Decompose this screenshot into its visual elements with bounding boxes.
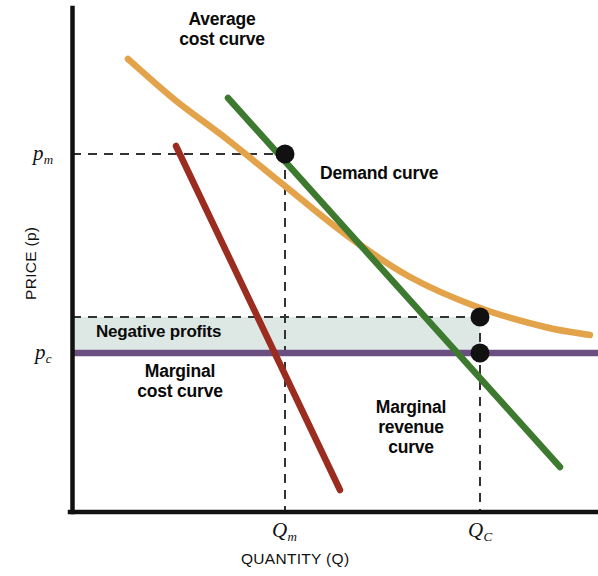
point-competitive-outcome <box>471 344 490 363</box>
x-axis-title: QUANTITY (Q) <box>241 550 349 568</box>
y-tick-pm-base: p <box>33 141 44 165</box>
y-tick-pm-sub: m <box>44 152 53 167</box>
natural-monopoly-chart: Average cost curve Demand curve Marginal… <box>0 0 598 576</box>
x-tick-label-qc: QC <box>468 518 492 543</box>
x-tick-qm-sub: m <box>287 529 296 544</box>
y-tick-pc-sub: c <box>46 351 52 366</box>
x-tick-qc-base: Q <box>468 518 483 542</box>
y-tick-pc-base: p <box>35 340 46 364</box>
axes <box>70 8 598 512</box>
y-tick-label-pc: pc <box>35 340 51 365</box>
x-tick-qc-sub: C <box>483 529 492 544</box>
x-tick-qm-base: Q <box>272 518 287 542</box>
label-average-cost-curve: Average cost curve <box>142 10 302 50</box>
label-demand-curve: Demand curve <box>320 164 500 184</box>
y-axis-title: PRICE (p) <box>22 227 40 300</box>
point-monopoly-outcome <box>276 145 295 164</box>
label-marginal-revenue-curve: Marginal revenue curve <box>336 398 486 458</box>
chart-canvas <box>0 0 598 576</box>
x-tick-label-qm: Qm <box>272 518 297 543</box>
point-average-cost-at-qc <box>471 308 490 327</box>
label-marginal-cost-curve: Marginal cost curve <box>96 362 264 402</box>
label-negative-profits: Negative profits <box>96 322 306 341</box>
y-tick-label-pm: pm <box>33 141 53 166</box>
